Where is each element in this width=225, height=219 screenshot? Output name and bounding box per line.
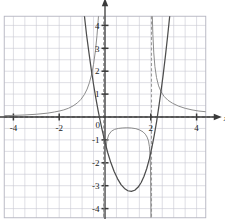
x-tick-label-4: 4 <box>194 123 199 133</box>
y-tick-label-2: 2 <box>95 66 100 76</box>
tick-label-layer: -4-20244321-1-2-3-4xy <box>10 0 225 214</box>
x-axis-label: x <box>223 113 225 123</box>
x-tick-label-2: 2 <box>149 123 154 133</box>
y-tick-label--2: -2 <box>92 158 100 168</box>
y-axis-arrowhead <box>102 0 108 6</box>
graph-figure: -4-20244321-1-2-3-4xy <box>0 0 225 219</box>
rational-curve-left-branch <box>4 12 99 116</box>
y-tick-label-3: 3 <box>95 44 100 54</box>
rational-curve-middle-branch <box>104 128 151 219</box>
x-axis-arrowhead <box>214 114 222 120</box>
y-tick-label-4: 4 <box>95 21 100 31</box>
coordinate-plane-svg: -4-20244321-1-2-3-4xy <box>0 0 225 219</box>
x-tick-label-0: 0 <box>96 120 101 130</box>
y-tick-label--1: -1 <box>92 135 100 145</box>
y-tick-label-1: 1 <box>95 89 100 99</box>
y-tick-label--4: -4 <box>92 204 100 214</box>
x-tick-label--4: -4 <box>10 123 18 133</box>
x-tick-label--2: -2 <box>55 123 63 133</box>
y-tick-label--3: -3 <box>92 181 100 191</box>
